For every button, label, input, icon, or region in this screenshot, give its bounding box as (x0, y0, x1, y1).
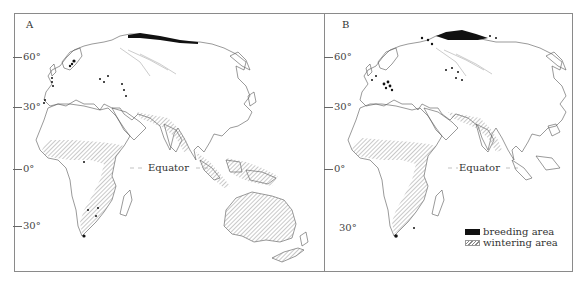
tick-mark (324, 169, 333, 170)
panel-a: A 60° 30° 0° 30° Equator (14, 13, 324, 272)
tick-mark (324, 57, 333, 58)
panel-b: B 60° 30° 0° 30° Equator breeding area w… (324, 13, 573, 272)
tick-mark (13, 107, 22, 108)
lat-label-30s-a: 30° (13, 220, 41, 231)
lat-label-30n-b: 30° (324, 101, 352, 112)
legend: breeding area wintering area (465, 226, 558, 248)
lat-label-0-a: 0° (13, 163, 34, 174)
lat-label-30s-b: 30° (339, 222, 357, 233)
lat-label-30n-a: 30° (13, 101, 41, 112)
lat-label-60-b: 60° (324, 51, 352, 62)
wintering-swatch-icon (465, 240, 480, 246)
lat-label-0-b: 0° (324, 163, 345, 174)
panel-label-a: A (26, 19, 33, 30)
equator-label-b: Equator (459, 162, 500, 173)
lat-label-60-a: 60° (13, 51, 41, 62)
tick-mark (13, 57, 22, 58)
tick-mark (13, 226, 22, 227)
equator-label-a: Equator (148, 162, 189, 173)
tick-mark (13, 169, 22, 170)
panel-label-b: B (342, 19, 349, 30)
tick-mark (324, 107, 333, 108)
legend-item-wintering: wintering area (465, 237, 558, 248)
breeding-swatch-icon (465, 229, 480, 235)
legend-item-breeding: breeding area (465, 226, 558, 237)
